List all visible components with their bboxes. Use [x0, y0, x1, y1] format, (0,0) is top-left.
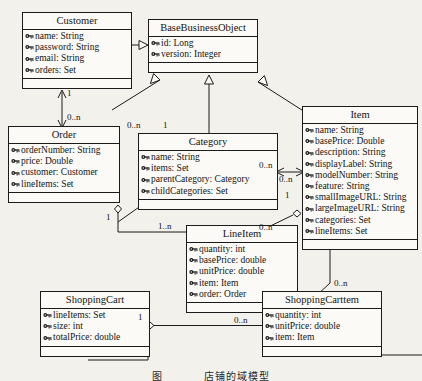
attribute-text: quantity: int: [275, 310, 321, 321]
multiplicity-category-item-left-n: 0..n: [259, 160, 273, 170]
attribute-text: item: Item: [275, 332, 314, 343]
class-name-customer: Customer: [23, 13, 131, 30]
attribute-text: displayLabel: String: [315, 159, 392, 170]
private-attribute-key-icon: [25, 43, 34, 52]
multiplicity-customer-order-1: 1: [67, 88, 72, 98]
operation-list-order: [9, 193, 119, 202]
attribute-row: unitPrice: double: [263, 321, 381, 332]
operation-list-item: [303, 240, 417, 249]
figure-caption-text: 店铺的域模型: [204, 371, 270, 381]
attribute-row: item: Item: [187, 278, 297, 289]
attribute-row: displayLabel: String: [303, 159, 417, 170]
attribute-text: size: int: [53, 321, 83, 332]
private-attribute-key-icon: [11, 169, 20, 178]
attribute-list-shoppingcart: lineItems: Set size: int totalPrice: dou…: [41, 309, 149, 347]
private-attribute-key-icon: [265, 322, 274, 331]
class-box-basebusinessobject[interactable]: BaseBusinessObject id: Long version: Int…: [148, 19, 258, 73]
private-attribute-key-icon: [189, 290, 198, 299]
attribute-text: quantity: int: [199, 244, 245, 255]
private-attribute-key-icon: [305, 205, 314, 214]
class-box-category[interactable]: Category name: String items: Set parentC…: [138, 133, 278, 210]
attribute-text: smallImageURL: String: [315, 192, 407, 203]
class-name-lineitem: LineItem: [187, 226, 297, 243]
private-attribute-key-icon: [305, 149, 314, 158]
diamond-item-lineitem: [293, 210, 301, 217]
multiplicity-category-item-right-n: 0..n: [279, 174, 293, 184]
attribute-row: orders: Set: [23, 65, 131, 76]
private-attribute-key-icon: [305, 227, 314, 236]
attribute-text: basePrice: double: [199, 255, 266, 266]
line-item-base: [258, 82, 305, 112]
attribute-text: basePrice: Double: [315, 136, 384, 147]
attribute-list-shoppingcartitem: quantity: int unitPrice: double item: It…: [263, 309, 381, 347]
multiplicity-cartitem-n: 0..n: [234, 315, 248, 325]
attribute-text: order: Order: [199, 289, 246, 300]
inheritance-triangle-category: [205, 75, 214, 84]
diamond-order-lineitem: [115, 205, 122, 213]
attribute-row: basePrice: Double: [303, 136, 417, 147]
attribute-row: size: int: [41, 321, 149, 332]
attribute-text: totalPrice: double: [53, 332, 120, 343]
attribute-text: name: String: [315, 125, 364, 136]
private-attribute-key-icon: [305, 182, 314, 191]
operation-list-shoppingcartitem: [263, 347, 381, 356]
inheritance-triangle-order: [150, 74, 160, 84]
private-attribute-key-icon: [25, 32, 34, 41]
inheritance-triangle-item: [258, 76, 268, 86]
attribute-text: customer: Customer: [21, 167, 98, 178]
private-attribute-key-icon: [43, 311, 52, 320]
attribute-row: price: Double: [9, 156, 119, 167]
class-box-shoppingcartitem[interactable]: ShoppingCarttem quantity: int unitPrice:…: [262, 291, 382, 357]
multiplicity-category-left-n: 0..n: [127, 120, 141, 130]
attribute-row: lineItems: Set: [41, 310, 149, 321]
attribute-row: orderNumber: String: [9, 145, 119, 156]
private-attribute-key-icon: [11, 146, 20, 155]
attribute-text: id: Long: [161, 38, 193, 49]
private-attribute-key-icon: [141, 153, 150, 162]
private-attribute-key-icon: [189, 268, 198, 277]
attribute-row: basePrice: double: [187, 255, 297, 266]
attribute-text: unitPrice: double: [275, 321, 340, 332]
operation-list-shoppingcart: [41, 347, 149, 356]
attribute-text: lineItems: Set: [21, 179, 74, 190]
attribute-row: description: String: [303, 147, 417, 158]
private-attribute-key-icon: [43, 334, 52, 343]
attribute-text: lineItems: Set: [53, 310, 106, 321]
attribute-row: childCategories: Set: [139, 186, 277, 197]
class-box-item[interactable]: Item name: String basePrice: Double desc…: [302, 106, 418, 250]
attribute-text: orderNumber: String: [21, 145, 100, 156]
attribute-row: smallImageURL: String: [303, 192, 417, 203]
attribute-row: version: Integer: [149, 49, 257, 60]
inheritance-triangle-customer: [139, 41, 148, 50]
attribute-row: items: Set: [139, 163, 277, 174]
private-attribute-key-icon: [151, 50, 160, 59]
operation-list-category: [139, 200, 277, 209]
attribute-text: item: Item: [199, 278, 238, 289]
attribute-text: feature: String: [315, 181, 370, 192]
attribute-text: lineItems: Set: [315, 226, 368, 237]
attribute-row: email: String: [23, 53, 131, 64]
class-name-basebusinessobject: BaseBusinessObject: [149, 20, 257, 37]
attribute-text: categories: Set: [315, 215, 371, 226]
private-attribute-key-icon: [151, 39, 160, 48]
attribute-text: items: Set: [151, 163, 189, 174]
attribute-row: name: String: [303, 125, 417, 136]
class-box-order[interactable]: Order orderNumber: String price: Double …: [8, 126, 120, 203]
class-box-shoppingcart[interactable]: ShoppingCart lineItems: Set size: int to…: [40, 291, 150, 357]
multiplicity-category-top-1: 1: [163, 120, 168, 130]
attribute-row: parentCategory: Category: [139, 174, 277, 185]
attribute-list-item: name: String basePrice: Double descripti…: [303, 124, 417, 240]
attribute-row: unitPrice: double: [187, 266, 297, 277]
attribute-text: childCategories: Set: [151, 186, 228, 197]
attribute-row: largeImageURL: String: [303, 203, 417, 214]
multiplicity-item-cartitem-n: 0..n: [334, 278, 348, 288]
private-attribute-key-icon: [265, 334, 274, 343]
attribute-row: item: Item: [263, 332, 381, 343]
private-attribute-key-icon: [25, 66, 34, 75]
operation-list-basebusinessobject: [149, 63, 257, 72]
class-box-customer[interactable]: Customer name: String password: String e…: [22, 12, 132, 89]
attribute-text: price: Double: [21, 156, 73, 167]
private-attribute-key-icon: [305, 160, 314, 169]
operation-list-customer: [23, 79, 131, 88]
attribute-row: quantity: int: [263, 310, 381, 321]
